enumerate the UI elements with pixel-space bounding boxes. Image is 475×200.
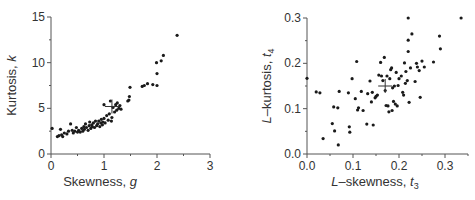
y-tick-label: 0.2 xyxy=(284,56,301,70)
x-tick-label: 0.0 xyxy=(299,159,316,173)
x-tick-label: 0.2 xyxy=(391,159,408,173)
data-point xyxy=(351,77,354,80)
data-point xyxy=(88,120,91,123)
x-tick-label: 1 xyxy=(101,159,108,173)
x-tick-label: 2 xyxy=(154,159,161,173)
y-tick-label: 10 xyxy=(32,56,46,70)
data-point xyxy=(305,77,308,80)
data-point xyxy=(155,72,158,75)
data-point xyxy=(460,16,463,19)
x-axis-title: L–skewness, t3 xyxy=(331,174,418,191)
skewness-kurtosis-plot: 0123051015Skewness, gKurtosis, k xyxy=(4,10,214,189)
data-point xyxy=(383,56,386,59)
data-point xyxy=(354,97,357,100)
data-point xyxy=(85,126,88,129)
data-point xyxy=(87,129,90,132)
data-point xyxy=(127,99,130,102)
data-point xyxy=(331,122,334,125)
data-point xyxy=(392,100,395,103)
data-point xyxy=(69,122,72,125)
data-point xyxy=(151,83,154,86)
data-point xyxy=(110,116,113,119)
data-point xyxy=(143,84,146,87)
data-point xyxy=(420,60,423,63)
data-point xyxy=(65,132,68,135)
data-point xyxy=(102,103,105,106)
data-point xyxy=(379,61,382,64)
data-point xyxy=(338,90,341,93)
data-point xyxy=(101,123,104,126)
data-point xyxy=(128,95,131,98)
data-point xyxy=(347,91,350,94)
data-point xyxy=(414,80,417,83)
data-point xyxy=(438,35,441,38)
data-point xyxy=(104,121,107,124)
data-point xyxy=(105,114,108,117)
y-tick-label: 0.0 xyxy=(284,147,301,161)
y-tick-label: 0 xyxy=(38,147,45,161)
x-tick-label: 3 xyxy=(207,159,214,173)
y-tick-label: 0.1 xyxy=(284,102,301,116)
data-point xyxy=(98,125,101,128)
data-point xyxy=(102,117,105,120)
x-axis-title: Skewness, g xyxy=(63,174,137,189)
data-point xyxy=(407,50,410,53)
data-point xyxy=(409,66,412,69)
data-point xyxy=(162,54,165,57)
data-point xyxy=(406,79,409,82)
data-point xyxy=(110,120,113,123)
data-point xyxy=(146,82,149,85)
data-point xyxy=(387,110,390,113)
data-point xyxy=(402,94,405,97)
data-point xyxy=(360,90,363,93)
data-point xyxy=(404,70,407,73)
data-point xyxy=(357,106,360,109)
data-point xyxy=(415,62,418,65)
data-point xyxy=(400,74,403,77)
data-point xyxy=(107,119,110,122)
data-point xyxy=(401,91,404,94)
data-point xyxy=(385,74,388,77)
y-axis-title: L–kurtosis, t4 xyxy=(259,48,276,123)
data-point xyxy=(348,125,351,128)
x-tick-label: 0 xyxy=(48,159,55,173)
data-point xyxy=(371,91,374,94)
data-point xyxy=(61,135,64,138)
data-point xyxy=(390,66,393,69)
data-point xyxy=(366,92,369,95)
data-point xyxy=(372,123,375,126)
data-point xyxy=(128,86,131,89)
data-point xyxy=(368,79,371,82)
data-point xyxy=(318,91,321,94)
data-point xyxy=(119,108,122,111)
y-axis-title: Kurtosis, k xyxy=(4,54,19,116)
data-point xyxy=(96,122,99,125)
x-tick-label: 0.1 xyxy=(345,159,362,173)
data-point xyxy=(391,109,394,112)
data-point xyxy=(397,84,400,87)
data-point xyxy=(403,61,406,64)
data-point xyxy=(416,65,419,68)
data-point xyxy=(84,122,87,125)
y-tick-label: 5 xyxy=(38,101,45,115)
data-point xyxy=(176,34,179,37)
data-point xyxy=(355,60,358,63)
data-point xyxy=(362,109,365,112)
data-point xyxy=(333,129,336,132)
data-point xyxy=(393,84,396,87)
data-point xyxy=(51,127,54,130)
data-point xyxy=(407,39,410,42)
y-tick-label: 15 xyxy=(32,10,46,24)
data-point xyxy=(408,101,411,104)
data-point xyxy=(386,104,389,107)
data-point xyxy=(59,128,62,131)
data-point xyxy=(322,137,325,140)
data-point xyxy=(75,126,78,129)
data-point xyxy=(397,77,400,80)
data-point xyxy=(315,90,318,93)
data-point xyxy=(380,74,383,77)
l-skewness-l-kurtosis-plot: 0.00.10.20.30.00.10.20.3L–skewness, t3L–… xyxy=(259,11,468,191)
data-point xyxy=(381,79,384,82)
data-point xyxy=(395,71,398,74)
data-point xyxy=(432,60,435,63)
